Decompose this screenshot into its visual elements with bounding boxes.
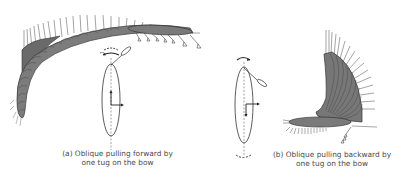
rotation-arrow-a-top	[104, 48, 118, 50]
tug-glyphs-a	[136, 33, 201, 48]
ship-schematic-b	[235, 58, 268, 158]
rotation-arrow-a	[103, 53, 119, 55]
caption-a: (a) Oblique pulling forward by one tug o…	[50, 150, 185, 167]
force-arrow-a	[121, 104, 124, 107]
hatch-lines-b	[286, 127, 326, 134]
start-hull-b	[289, 117, 351, 127]
towline-a	[111, 55, 122, 65]
force-arrow-b	[257, 103, 260, 106]
panel-b-trajectory	[283, 30, 377, 143]
tug-icon-b	[256, 78, 267, 88]
ship-schematic-a	[100, 46, 132, 150]
tug-icon-a	[120, 46, 132, 57]
caption-a-line2: one tug on the bow	[50, 159, 185, 168]
caption-b-line2: one tug on the bow	[262, 160, 402, 169]
rotation-arrow-b-stern	[236, 155, 251, 158]
tug-glyphs-b	[341, 127, 351, 143]
caption-b: (b) Oblique pulling backward by one tug …	[262, 151, 402, 168]
